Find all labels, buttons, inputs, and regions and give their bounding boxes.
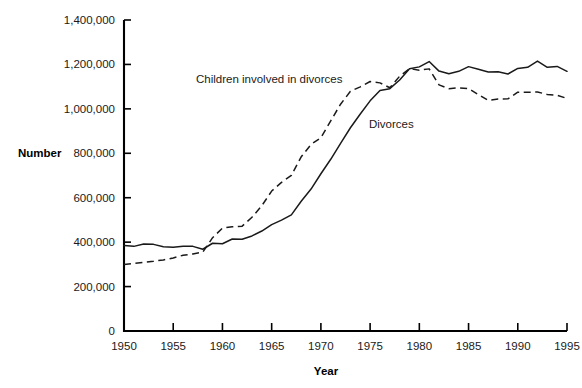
- x-axis-tick-labels: 1950195519601965197019751980198519901995: [111, 340, 580, 352]
- x-axis-ticks: [124, 323, 567, 331]
- y-axis-tick-label: 600,000: [73, 192, 115, 204]
- series-annotation-divorces: Divorces: [369, 118, 414, 130]
- x-axis-tick-label: 1965: [259, 340, 285, 352]
- series-line-children-involved-in-divorces: [124, 69, 567, 265]
- x-axis-tick-label: 1985: [456, 340, 482, 352]
- y-axis-tick-label: 1,000,000: [64, 103, 115, 115]
- x-axis-title: Year: [314, 365, 339, 377]
- y-axis-tick-label: 0: [109, 325, 115, 337]
- y-axis-tick-label: 200,000: [73, 281, 115, 293]
- x-axis-tick-label: 1975: [357, 340, 383, 352]
- y-axis-tick-label: 800,000: [73, 147, 115, 159]
- series-annotation-children-involved-in-divorces: Children involved in divorces: [196, 73, 343, 85]
- x-axis-tick-label: 1960: [210, 340, 236, 352]
- divorces-line-chart: 0200,000400,000600,000800,0001,000,0001,…: [0, 0, 582, 388]
- x-axis-tick-label: 1955: [160, 340, 186, 352]
- chart-canvas: 0200,000400,000600,000800,0001,000,0001,…: [0, 0, 582, 388]
- x-axis-tick-label: 1970: [308, 340, 334, 352]
- x-axis-tick-label: 1995: [554, 340, 580, 352]
- x-axis-tick-label: 1990: [505, 340, 531, 352]
- x-axis-tick-label: 1980: [407, 340, 433, 352]
- x-axis-tick-label: 1950: [111, 340, 137, 352]
- chart-axes: [124, 20, 567, 331]
- y-axis-title: Number: [18, 147, 62, 159]
- y-axis-tick-label: 1,200,000: [64, 58, 115, 70]
- y-axis-tick-label: 400,000: [73, 236, 115, 248]
- y-axis-tick-labels: 0200,000400,000600,000800,0001,000,0001,…: [64, 14, 115, 337]
- y-axis-tick-label: 1,400,000: [64, 14, 115, 26]
- series-line-divorces: [124, 61, 567, 249]
